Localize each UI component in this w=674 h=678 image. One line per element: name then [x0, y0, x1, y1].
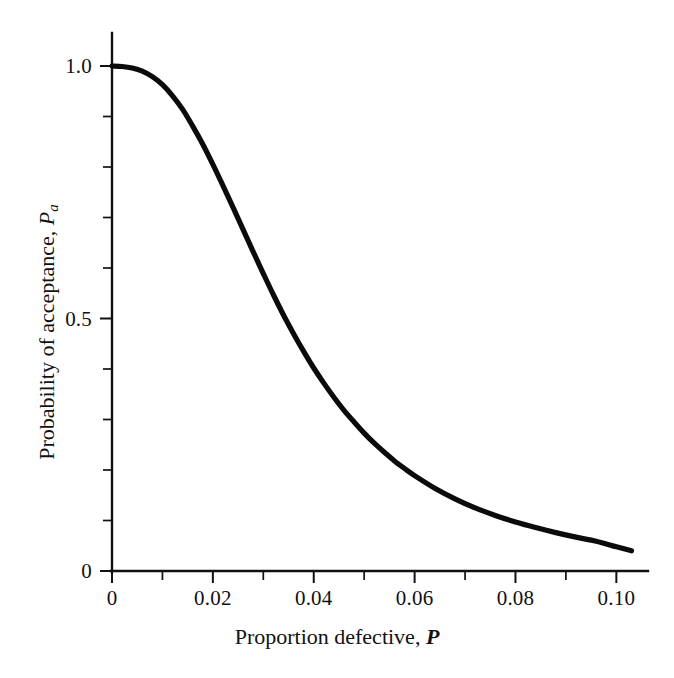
oc-curve-line: [112, 66, 631, 551]
x-tick-label: 0.08: [497, 588, 535, 609]
x-axis-ticks: [112, 571, 616, 583]
y-axis-title: Probability of acceptance, Pa: [34, 12, 62, 652]
x-tick-label: 0.02: [194, 588, 232, 609]
x-axis-title-symbol: P: [426, 624, 439, 649]
plot-area: [0, 0, 674, 678]
x-tick-label: 0.06: [396, 588, 434, 609]
x-axis-title-text: Proportion defective,: [235, 624, 426, 649]
y-axis-ticks: [100, 66, 112, 571]
y-axis-title-symbol: P: [34, 212, 59, 225]
oc-curve-series: [112, 66, 631, 551]
x-tick-label: 0.10: [598, 588, 636, 609]
y-axis-title-subscript: a: [45, 204, 61, 211]
x-tick-label: 0.04: [295, 588, 333, 609]
oc-curve-figure: 00.020.040.060.080.10 00.51.0 Proportion…: [0, 0, 674, 678]
x-axis-title: Proportion defective, P: [0, 624, 674, 650]
x-tick-label: 0: [107, 588, 118, 609]
axes: [111, 33, 648, 572]
y-axis-title-text: Probability of acceptance,: [34, 225, 59, 460]
